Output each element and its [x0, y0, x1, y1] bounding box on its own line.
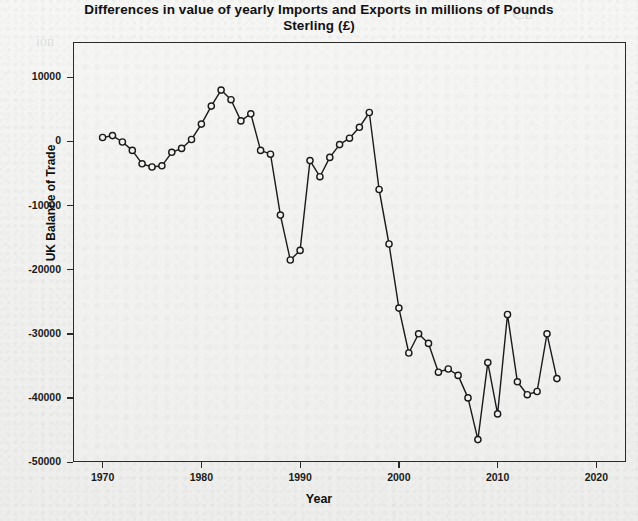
- data-point-marker: [524, 392, 530, 398]
- data-point-marker: [317, 174, 323, 180]
- data-point-marker: [267, 151, 273, 157]
- data-point-marker: [386, 241, 392, 247]
- data-point-marker: [435, 369, 441, 375]
- data-point-marker: [337, 142, 343, 148]
- data-point-marker: [534, 388, 540, 394]
- data-point-marker: [169, 149, 175, 155]
- data-point-marker: [416, 331, 422, 337]
- data-point-marker: [139, 161, 145, 167]
- data-point-marker: [406, 350, 412, 356]
- data-point-marker: [455, 372, 461, 378]
- data-point-marker: [159, 163, 165, 169]
- data-point-marker: [514, 379, 520, 385]
- data-point-marker: [277, 212, 283, 218]
- data-point-marker: [366, 109, 372, 115]
- data-point-marker: [485, 360, 491, 366]
- data-point-marker: [346, 135, 352, 141]
- data-point-marker: [327, 154, 333, 160]
- chart-root: Caiona and Corption Activitiensumptiong …: [0, 0, 638, 521]
- data-point-marker: [544, 331, 550, 337]
- data-point-marker: [356, 124, 362, 130]
- data-point-marker: [238, 118, 244, 124]
- data-point-marker: [504, 311, 510, 317]
- data-point-marker: [100, 134, 106, 140]
- data-point-marker: [425, 340, 431, 346]
- data-point-marker: [218, 87, 224, 93]
- data-point-marker: [248, 111, 254, 117]
- data-point-marker: [129, 147, 135, 153]
- data-point-marker: [495, 411, 501, 417]
- data-point-marker: [554, 376, 560, 382]
- data-point-marker: [149, 164, 155, 170]
- series-markers: [100, 87, 561, 443]
- data-point-marker: [198, 121, 204, 127]
- data-point-marker: [179, 145, 185, 151]
- data-point-marker: [228, 97, 234, 103]
- data-point-marker: [307, 158, 313, 164]
- data-point-marker: [396, 305, 402, 311]
- data-series-layer: [0, 0, 638, 521]
- data-point-marker: [188, 136, 194, 142]
- series-line: [103, 90, 557, 440]
- data-point-marker: [208, 103, 214, 109]
- data-point-marker: [475, 437, 481, 443]
- data-point-marker: [258, 147, 264, 153]
- data-point-marker: [376, 186, 382, 192]
- data-point-marker: [287, 257, 293, 263]
- data-point-marker: [465, 395, 471, 401]
- data-point-marker: [297, 247, 303, 253]
- data-point-marker: [445, 366, 451, 372]
- data-point-marker: [109, 133, 115, 139]
- data-point-marker: [119, 139, 125, 145]
